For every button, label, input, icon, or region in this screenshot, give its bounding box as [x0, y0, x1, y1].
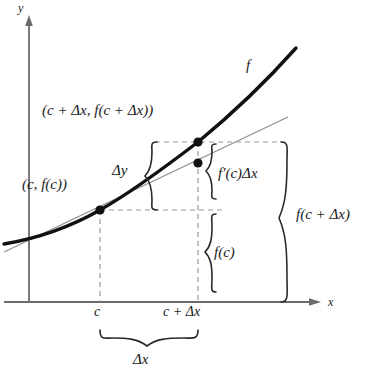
brace-f-of-c-plus-delta-x [279, 142, 287, 302]
curve-function-label: f [246, 58, 250, 73]
point-label-c-plus-delta-x: (c + Δx, f(c + Δx)) [42, 103, 153, 118]
point-c-plus-dx [193, 137, 202, 146]
x-axis-label: x [328, 296, 333, 308]
y-axis-label: y [18, 2, 23, 14]
x-tick-label-c-plus-delta-x: c + Δx [163, 305, 200, 319]
x-axis-arrowhead [309, 298, 321, 306]
axes-group [4, 15, 321, 306]
y-axis-arrowhead [25, 15, 33, 26]
brace-delta-x [100, 330, 198, 346]
derivative-diagram-figure: y x f (c + Δx, f(c + Δx)) (c, f(c)) Δy f… [0, 0, 380, 384]
function-curve [4, 48, 296, 244]
dashed-guides-group [100, 142, 286, 302]
point-tangent-value [193, 158, 202, 167]
point-label-c-fc: (c, f(c)) [22, 177, 67, 192]
measure-label-f-prime-delta-x: f′(c)Δx [218, 166, 258, 181]
point-c-fc [95, 205, 104, 214]
diagram-canvas [0, 0, 380, 384]
measure-label-f-of-c: f(c) [214, 245, 235, 260]
measure-label-f-of-c-plus-delta-x: f(c + Δx) [296, 207, 350, 222]
measure-label-delta-x: Δx [133, 352, 148, 367]
measure-label-delta-y: Δy [112, 163, 127, 178]
x-tick-label-c: c [94, 305, 100, 319]
